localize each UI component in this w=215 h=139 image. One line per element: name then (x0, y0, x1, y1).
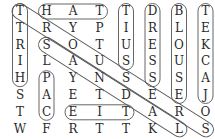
grid-cell[interactable]: H (34, 3, 60, 20)
grid-cell[interactable]: T (87, 37, 113, 54)
grid-cell[interactable]: W (7, 121, 33, 138)
grid-cell[interactable]: D (113, 87, 139, 104)
grid-cell[interactable]: T (87, 121, 113, 138)
grid-cell[interactable]: T (87, 3, 113, 20)
grid-cell[interactable]: L (166, 121, 192, 138)
grid-cell[interactable]: S (140, 70, 166, 87)
grid-cell[interactable]: R (60, 121, 86, 138)
grid-cell[interactable]: P (87, 20, 113, 37)
grid-cell[interactable]: Y (60, 70, 86, 87)
grid-cell[interactable]: S (34, 37, 60, 54)
grid-cell[interactable]: Y (60, 20, 86, 37)
grid-cell[interactable]: C (34, 104, 60, 121)
grid-cell[interactable]: E (166, 87, 192, 104)
grid-cell[interactable]: A (140, 104, 166, 121)
grid-cell[interactable]: R (140, 20, 166, 37)
grid-cell[interactable]: S (113, 53, 139, 70)
grid-cell[interactable]: B (166, 3, 192, 20)
grid-cell[interactable]: S (193, 121, 215, 138)
grid-cell[interactable]: P (34, 70, 60, 87)
grid-cell[interactable]: L (34, 53, 60, 70)
grid-cell[interactable]: N (87, 70, 113, 87)
grid-cell[interactable]: T (113, 104, 139, 121)
grid-cell[interactable]: U (166, 53, 192, 70)
grid-cell[interactable]: F (34, 121, 60, 138)
grid-cell[interactable]: T (113, 121, 139, 138)
grid-cell[interactable]: U (87, 53, 113, 70)
word-search-grid: THATTDBTTRYPIRLERSOTUEOKILAUSSUCHPYNSSSA… (0, 0, 214, 139)
grid-cell[interactable]: K (140, 121, 166, 138)
grid-cell[interactable]: O (60, 37, 86, 54)
grid-cell[interactable]: S (113, 70, 139, 87)
grid-cell[interactable]: A (60, 53, 86, 70)
grid-cell[interactable]: R (166, 104, 192, 121)
grid-cell[interactable]: E (140, 37, 166, 54)
grid-cell[interactable]: K (193, 37, 215, 54)
grid-cell[interactable]: E (60, 87, 86, 104)
grid-cell[interactable]: T (7, 20, 33, 37)
grid-cell[interactable]: R (34, 20, 60, 37)
grid-cell[interactable]: T (193, 3, 215, 20)
grid-cell[interactable]: I (87, 104, 113, 121)
grid-cell[interactable]: T (87, 87, 113, 104)
grid-cell[interactable]: U (113, 37, 139, 54)
grid-cell[interactable]: T (113, 3, 139, 20)
grid-cell[interactable]: A (60, 3, 86, 20)
grid-cell[interactable]: S (140, 53, 166, 70)
grid-cell[interactable]: A (34, 87, 60, 104)
grid-cell[interactable]: S (166, 70, 192, 87)
grid-cell[interactable]: I (113, 20, 139, 37)
grid-cell[interactable]: L (166, 20, 192, 37)
grid-cell[interactable]: O (193, 104, 215, 121)
grid-cell[interactable]: I (7, 53, 33, 70)
grid-cell[interactable]: E (193, 20, 215, 37)
grid-cell[interactable]: A (193, 70, 215, 87)
grid-cell[interactable]: T (7, 104, 33, 121)
grid-cell[interactable]: O (166, 37, 192, 54)
grid-cell[interactable]: C (193, 53, 215, 70)
grid-cell[interactable]: D (140, 3, 166, 20)
grid-cell[interactable]: T (7, 3, 33, 20)
grid-cell[interactable]: E (60, 104, 86, 121)
grid-cell[interactable]: E (140, 87, 166, 104)
grid-cell[interactable]: H (7, 70, 33, 87)
grid-cell[interactable]: S (7, 87, 33, 104)
grid-cell[interactable]: J (193, 87, 215, 104)
grid-cell[interactable]: R (7, 37, 33, 54)
